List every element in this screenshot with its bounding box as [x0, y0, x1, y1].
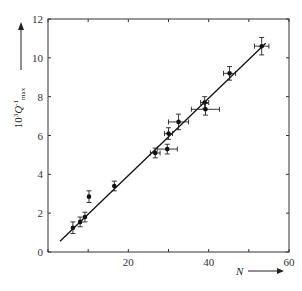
axis-labels: N 103Q-1max — [12, 22, 284, 277]
data-point — [191, 103, 219, 115]
data-point — [150, 148, 160, 158]
data-point — [78, 217, 83, 227]
data-point — [164, 128, 172, 140]
data-point — [86, 191, 91, 203]
scatter-chart: 204060024681012 N 103Q-1max — [0, 0, 302, 291]
y-tick-label: 0 — [38, 246, 44, 258]
y-tick-label: 4 — [38, 168, 44, 180]
data-point — [224, 67, 236, 81]
y-tick-label: 2 — [38, 207, 44, 219]
data-point — [169, 114, 189, 130]
data-point — [82, 212, 87, 222]
data-point — [112, 181, 117, 191]
x-axis-label: N — [235, 265, 244, 277]
y-axis-label: 103Q-1max — [12, 87, 27, 128]
svg-text:103Q-1max: 103Q-1max — [12, 87, 27, 128]
y-tick-label: 6 — [38, 130, 44, 142]
x-tick-label: 20 — [123, 256, 135, 268]
y-tick-label: 10 — [32, 52, 44, 64]
x-tick-label: 40 — [203, 256, 215, 268]
data-points — [70, 37, 269, 233]
y-label-arrow-icon — [18, 22, 24, 70]
data-point — [70, 222, 75, 234]
y-tick-label: 12 — [32, 13, 43, 25]
data-point — [201, 97, 209, 109]
x-tick-label: 60 — [284, 256, 296, 268]
y-tick-label: 8 — [38, 91, 44, 103]
x-label-arrow-icon — [248, 268, 284, 274]
